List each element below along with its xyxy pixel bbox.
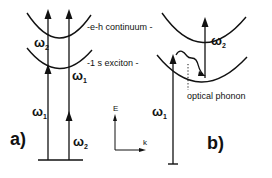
phonon-relaxation-curve	[176, 51, 203, 74]
omega-2-upper-label-a: ω2	[34, 35, 49, 51]
omega-1-upper-label-a: ω1	[72, 68, 87, 84]
energy-axis-arrowhead	[113, 114, 117, 121]
momentum-axis-arrowhead	[139, 148, 146, 152]
optical-phonon-label: optical phonon	[187, 91, 246, 101]
e-h-continuum-band-b	[162, 13, 246, 43]
omega-2-lower-label-a: ω2	[73, 134, 88, 150]
panel-a: -e-h continuum - -1 s exciton - ω2 ω1 ω1…	[10, 9, 153, 160]
e-h-continuum-label: -e-h continuum -	[87, 22, 153, 32]
arrowhead-omega2-b	[202, 17, 209, 27]
panel-b: ω2 ω1 optical phonon b)	[152, 13, 247, 164]
panel-b-label: b)	[207, 133, 224, 153]
arrowhead-omega1-b	[170, 54, 177, 64]
two-photon-diagram: -e-h continuum - -1 s exciton - ω2 ω1 ω1…	[0, 0, 272, 178]
energy-axis-label: E	[113, 104, 118, 113]
omega-1-label-b: ω1	[152, 104, 167, 120]
momentum-axis-label: k	[143, 138, 148, 147]
arrowhead-top-left-a	[45, 9, 52, 19]
exciton-band-b	[157, 55, 247, 82]
exciton-1s-label: -1 s exciton -	[87, 58, 139, 68]
omega-2-label-b: ω2	[211, 33, 226, 49]
panel-a-label: a)	[10, 129, 26, 149]
arrowhead-mid-left-a	[45, 64, 52, 74]
arrowhead-mid-right-a	[66, 111, 73, 121]
arrowhead-top-right-a	[66, 9, 73, 19]
e-k-axes: E k	[113, 104, 148, 152]
omega-1-lower-label-a: ω1	[32, 104, 47, 120]
exciton-1s-band-a	[27, 48, 92, 69]
